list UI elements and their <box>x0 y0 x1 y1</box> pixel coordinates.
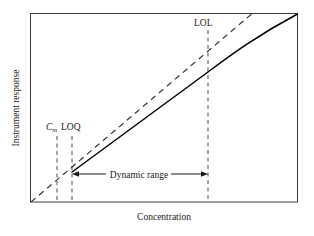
marker-label-cm-subscript: m <box>52 126 57 133</box>
calibration-curve-figure: Cm LOQ LOL Dynamic range Concentration I… <box>0 0 314 236</box>
x-axis-label: Concentration <box>137 212 191 222</box>
marker-label-loq: LOQ <box>61 122 81 132</box>
figure-container: Cm LOQ LOL Dynamic range Concentration I… <box>0 0 314 236</box>
marker-label-lol: LOL <box>194 18 213 28</box>
dynamic-range-label: Dynamic range <box>110 170 168 180</box>
y-axis-label: Instrument response <box>11 70 21 147</box>
